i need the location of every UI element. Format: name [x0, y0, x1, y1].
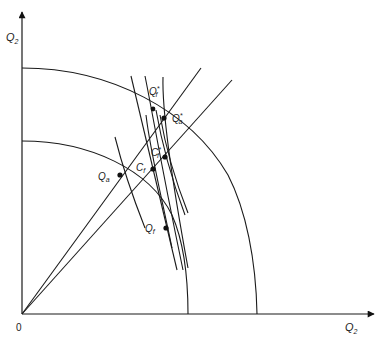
ray-upper — [22, 68, 201, 314]
point-Qf-star — [151, 107, 156, 112]
label-Qf: Qf — [145, 223, 156, 235]
curve-family — [115, 76, 188, 270]
point-Cf — [150, 166, 155, 171]
label-Cf: Cf — [136, 162, 146, 174]
point-Qa-star — [161, 115, 166, 120]
ray-lower — [22, 80, 232, 314]
label-Qa: Qa — [98, 171, 110, 183]
point-Qf — [163, 225, 168, 230]
diagram-canvas: Q2 Q2 0 Qa Qf Cf C*f Q*f Q*a — [0, 0, 387, 341]
label-Qf-star: Q*f — [149, 85, 160, 98]
origin-label: 0 — [16, 322, 22, 333]
point-Cf-star — [162, 154, 167, 159]
axes — [22, 12, 374, 314]
point-Qa — [117, 172, 122, 177]
inner-frontier-curve — [22, 141, 188, 314]
outer-frontier-curve — [22, 68, 257, 314]
y-axis-label: Q2 — [6, 31, 19, 45]
x-axis-label: Q2 — [345, 321, 358, 335]
label-Cf-star: C*f — [151, 146, 161, 159]
label-Qa-star: Q*a — [172, 112, 183, 125]
